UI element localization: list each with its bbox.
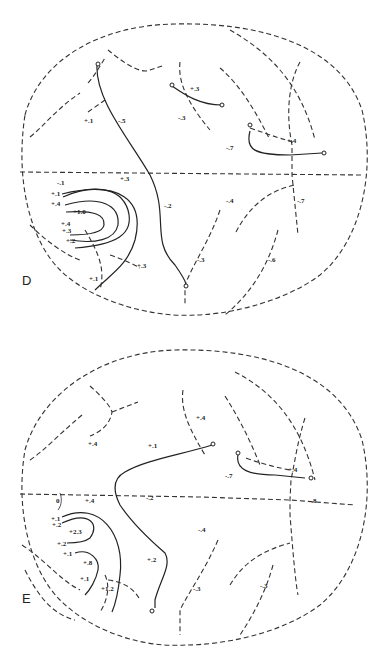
svg-text:+.1: +.1 <box>89 275 99 283</box>
electrode <box>322 151 326 155</box>
panel-d: +.1 -.5 +.3 -.3 -.7 +.4 -.1 +.3 +.1 +.4 … <box>20 24 367 315</box>
midline-d <box>20 172 362 175</box>
svg-text:+.1: +.1 <box>51 190 61 198</box>
svg-text:+.2: +.2 <box>57 540 67 548</box>
svg-text:+.1: +.1 <box>80 575 90 583</box>
svg-text:+.3: +.3 <box>190 85 200 93</box>
electrode <box>309 476 313 480</box>
svg-text:+1.2: +1.2 <box>101 585 114 593</box>
svg-text:-.2: -.2 <box>146 494 154 502</box>
svg-text:-.5: -.5 <box>118 117 126 125</box>
svg-text:+.4: +.4 <box>85 497 95 505</box>
electrode <box>150 609 154 613</box>
svg-text:-.3: -.3 <box>260 582 268 590</box>
svg-text:+2.3: +2.3 <box>69 528 82 536</box>
svg-text:+.1: +.1 <box>148 442 158 450</box>
svg-text:-.7: -.7 <box>297 197 305 205</box>
svg-text:-.3: -.3 <box>193 585 201 593</box>
svg-text:-.4: -.4 <box>226 197 234 205</box>
svg-text:0: 0 <box>56 497 60 505</box>
svg-text:-.8: -.8 <box>309 497 317 505</box>
svg-text:-.1: -.1 <box>57 179 65 187</box>
svg-text:+1.0: +1.0 <box>73 208 86 216</box>
head-outline-d <box>22 24 367 315</box>
svg-text:+.4: +.4 <box>51 200 61 208</box>
eeg-potential-maps: +.1 -.5 +.3 -.3 -.7 +.4 -.1 +.3 +.1 +.4 … <box>0 0 382 662</box>
panel-label-d: D <box>22 273 31 288</box>
svg-text:-.3: -.3 <box>197 256 205 264</box>
svg-text:-.3: -.3 <box>178 114 186 122</box>
electrode <box>184 284 188 288</box>
svg-text:+.1: +.1 <box>84 117 94 125</box>
svg-text:-.4: -.4 <box>198 526 206 534</box>
electrode <box>211 442 215 446</box>
svg-text:+.2: +.2 <box>52 521 62 529</box>
electrode <box>220 103 224 107</box>
midline-e <box>20 494 355 505</box>
svg-text:+.2: +.2 <box>66 237 76 245</box>
svg-text:+.4: +.4 <box>88 440 98 448</box>
svg-text:+.4: +.4 <box>288 466 298 474</box>
svg-text:+.2: +.2 <box>147 556 157 564</box>
panel-e: +.4 +.1 +.4 -.7 +.4 0 +.4 -.2 -.8 +.1 +.… <box>20 350 367 645</box>
electrode <box>248 123 252 127</box>
svg-text:-.7: -.7 <box>225 472 233 480</box>
svg-text:+.3: +.3 <box>62 227 72 235</box>
svg-text:-.2: -.2 <box>164 202 172 210</box>
svg-text:+.3: +.3 <box>120 175 130 183</box>
svg-text:-.6: -.6 <box>268 256 276 264</box>
electrode <box>96 62 100 66</box>
svg-text:+.8: +.8 <box>83 559 93 567</box>
svg-text:+.4: +.4 <box>287 137 297 145</box>
panel-label-e: E <box>22 591 31 606</box>
electrode <box>170 83 174 87</box>
svg-text:+.3: +.3 <box>137 262 147 270</box>
svg-text:-.7: -.7 <box>226 144 234 152</box>
svg-text:+.1: +.1 <box>63 550 73 558</box>
electrode <box>236 451 240 455</box>
svg-text:+.4: +.4 <box>196 414 206 422</box>
